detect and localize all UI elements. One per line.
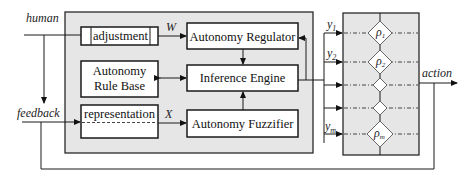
adjustment-block: adjustment bbox=[81, 27, 158, 45]
autonomy-regulator-block: Autonomy Regulator bbox=[187, 23, 298, 49]
x-signal-label: X bbox=[164, 107, 173, 121]
representation-block: representation bbox=[81, 105, 158, 138]
autonomy-fuzzifier-block: Autonomy Fuzzifier bbox=[187, 110, 298, 137]
y2-label: y2 bbox=[326, 46, 336, 62]
rule-base-label-line2: Rule Base bbox=[94, 79, 145, 93]
adjustment-label: adjustment bbox=[93, 29, 148, 43]
autonomy-fuzzifier-label: Autonomy Fuzzifier bbox=[192, 117, 295, 131]
autonomy-architecture-diagram: human feedback adjustment W Autonomy Reg… bbox=[0, 0, 471, 178]
action-label: action bbox=[422, 66, 452, 80]
inference-engine-label: Inference Engine bbox=[200, 71, 286, 85]
autonomy-regulator-label: Autonomy Regulator bbox=[190, 30, 297, 44]
w-signal-label: W bbox=[166, 20, 177, 34]
rule-base-label-line1: Autonomy bbox=[93, 64, 147, 78]
human-label: human bbox=[26, 11, 59, 25]
ym-label: ym bbox=[324, 119, 336, 135]
feedback-label: feedback bbox=[17, 106, 60, 120]
representation-label: representation bbox=[84, 107, 156, 121]
y1-label: y1 bbox=[326, 17, 336, 33]
inference-engine-block: Inference Engine bbox=[187, 65, 298, 91]
autonomy-rule-base-block: Autonomy Rule Base bbox=[81, 61, 158, 97]
